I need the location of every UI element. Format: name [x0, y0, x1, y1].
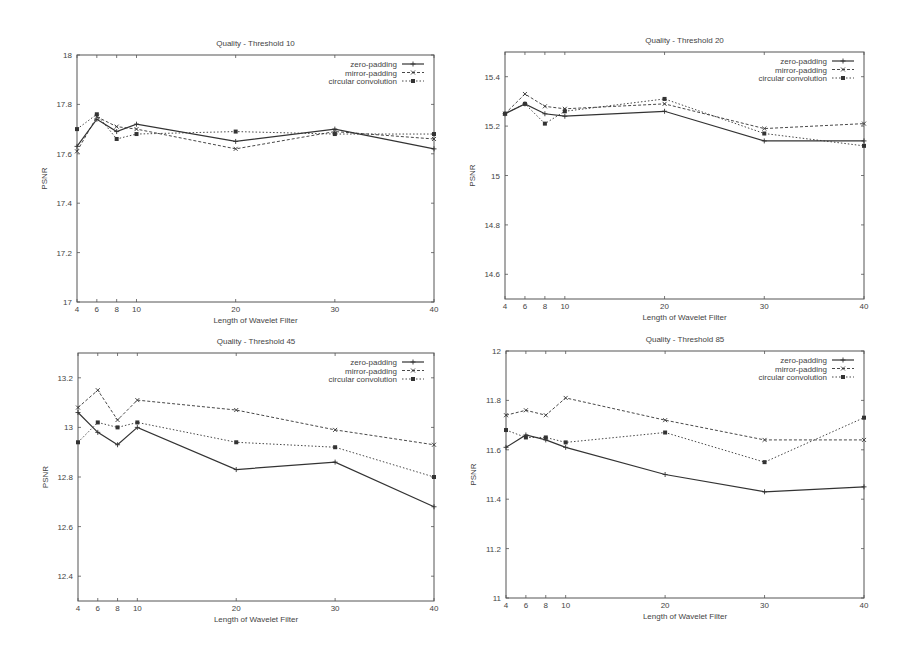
- plus-marker: [762, 138, 767, 143]
- y-tick-label: 17.6: [56, 150, 72, 159]
- y-tick-label: 14.8: [484, 221, 500, 230]
- x-tick-label: 6: [523, 302, 528, 311]
- x-tick-label: 20: [231, 305, 240, 314]
- x-tick-label: 6: [95, 305, 100, 314]
- series-line: [77, 117, 434, 152]
- plus-marker: [234, 467, 239, 472]
- plus-marker: [332, 127, 337, 132]
- x-tick-label: 20: [232, 604, 241, 613]
- chart-title: Quality - Threshold 85: [646, 335, 725, 344]
- series-mirror-padding: [503, 92, 866, 131]
- y-tick-label: 11.8: [486, 396, 502, 405]
- series-line: [78, 422, 434, 477]
- y-tick-label: 12.8: [57, 473, 73, 482]
- plus-marker: [563, 445, 568, 450]
- x-tick-label: 4: [503, 302, 508, 311]
- x-axis-label: Length of Wavelet Filter: [214, 615, 299, 624]
- square-marker: [663, 97, 667, 101]
- chart-title: Quality - Threshold 10: [216, 39, 295, 48]
- plus-marker: [411, 360, 416, 365]
- series-line: [78, 413, 434, 507]
- legend-label: circular convolution: [759, 373, 827, 382]
- square-marker: [524, 435, 528, 439]
- x-tick-label: 40: [430, 305, 439, 314]
- x-tick-label: 30: [760, 601, 769, 610]
- square-marker: [841, 76, 845, 80]
- square-marker: [115, 137, 119, 141]
- plot-frame: [78, 353, 434, 601]
- square-marker: [96, 420, 100, 424]
- square-marker: [432, 132, 436, 136]
- x-marker: [544, 413, 548, 417]
- y-tick-label: 11.2: [486, 545, 502, 554]
- series-zero-padding: [504, 432, 867, 494]
- square-marker: [135, 132, 139, 136]
- plus-marker: [134, 122, 139, 127]
- y-tick-label: 11.4: [486, 495, 502, 504]
- x-tick-label: 20: [661, 601, 670, 610]
- plus-marker: [432, 504, 437, 509]
- y-tick-label: 17.8: [56, 100, 72, 109]
- x-axis-label: Length of Wavelet Filter: [642, 313, 727, 322]
- x-marker: [116, 418, 120, 422]
- x-tick-label: 10: [560, 302, 569, 311]
- x-axis-label: Length of Wavelet Filter: [643, 612, 728, 621]
- legend-label: circular convolution: [329, 77, 397, 86]
- y-tick-label: 12.6: [57, 523, 73, 532]
- x-marker: [564, 396, 568, 400]
- y-tick-label: 15.4: [484, 73, 500, 82]
- square-marker: [135, 420, 139, 424]
- x-tick-label: 4: [75, 305, 80, 314]
- chart-4: Quality - Threshold 851111.211.411.611.8…: [469, 335, 869, 621]
- series-line: [505, 94, 864, 129]
- series-line: [506, 435, 864, 492]
- x-marker: [523, 92, 527, 96]
- y-axis-label: PSNR: [469, 463, 478, 485]
- square-marker: [523, 102, 527, 106]
- y-tick-label: 12.4: [57, 572, 73, 581]
- square-marker: [544, 435, 548, 439]
- x-tick-label: 4: [504, 601, 509, 610]
- legend: zero-paddingmirror-paddingcircular convo…: [759, 57, 854, 83]
- square-marker: [663, 431, 667, 435]
- plus-marker: [542, 111, 547, 116]
- square-marker: [95, 112, 99, 116]
- series-line: [505, 104, 864, 141]
- series-circular-convolution: [503, 97, 866, 148]
- legend: zero-paddingmirror-paddingcircular convo…: [759, 356, 854, 382]
- y-tick-label: 14.6: [484, 270, 500, 279]
- x-tick-label: 40: [860, 601, 869, 610]
- legend: zero-paddingmirror-paddingcircular convo…: [329, 358, 424, 384]
- plus-marker: [233, 139, 238, 144]
- x-tick-label: 40: [860, 302, 869, 311]
- series-circular-convolution: [76, 420, 436, 479]
- plus-marker: [663, 472, 668, 477]
- plus-marker: [333, 460, 338, 465]
- y-tick-label: 15.2: [484, 122, 500, 131]
- plus-marker: [862, 138, 867, 143]
- square-marker: [75, 127, 79, 131]
- square-marker: [503, 112, 507, 116]
- x-tick-label: 30: [331, 604, 340, 613]
- x-axis-label: Length of Wavelet Filter: [213, 316, 298, 325]
- plot-frame: [506, 351, 864, 598]
- y-axis-label: PSNR: [468, 164, 477, 186]
- plus-marker: [562, 114, 567, 119]
- square-marker: [76, 440, 80, 444]
- y-tick-label: 11.6: [486, 446, 502, 455]
- y-axis-label: PSNR: [40, 167, 49, 189]
- square-marker: [411, 377, 415, 381]
- chart-title: Quality - Threshold 45: [217, 337, 296, 346]
- y-tick-label: 18: [63, 51, 72, 60]
- square-marker: [432, 475, 436, 479]
- x-tick-label: 8: [544, 601, 549, 610]
- series-line: [506, 398, 864, 440]
- chart-canvas: Quality - Threshold 101717.217.417.617.8…: [0, 0, 908, 653]
- x-tick-label: 6: [524, 601, 529, 610]
- y-tick-label: 13.2: [57, 374, 73, 383]
- square-marker: [116, 425, 120, 429]
- square-marker: [333, 132, 337, 136]
- legend-label: circular convolution: [759, 74, 827, 83]
- plot-frame: [77, 55, 434, 302]
- y-tick-label: 12: [492, 347, 501, 356]
